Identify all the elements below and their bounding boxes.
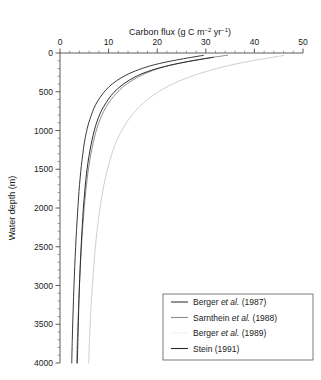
y-axis-title: Water depth (m) [7, 176, 17, 241]
legend-label-3: Stein (1991) [193, 344, 239, 354]
y-axis-ticks: 05001000150020002500300035004000 [34, 48, 60, 368]
legend-label-2: Berger et al. (1989) [193, 328, 266, 338]
x-axis-ticks: 01020304050 [58, 37, 308, 53]
y-tick-label: 1000 [34, 126, 53, 136]
x-tick-label: 0 [58, 37, 63, 47]
y-tick-label: 3500 [34, 319, 53, 329]
legend-label-0: Berger et al. (1987) [193, 297, 266, 307]
chart-title: Carbon flux (g C m−2 yr−1) [129, 27, 231, 38]
svg-text:Water depth (m): Water depth (m) [7, 176, 17, 241]
y-tick-label: 500 [39, 87, 53, 97]
legend-label-1: Sarnthein et al. (1988) [193, 313, 277, 323]
legend: Berger et al. (1987)Sarnthein et al. (19… [163, 294, 313, 360]
y-tick-label: 2500 [34, 242, 53, 252]
y-tick-label: 4000 [34, 358, 53, 368]
x-tick-label: 20 [152, 37, 162, 47]
y-tick-label: 2000 [34, 203, 53, 213]
y-tick-label: 1500 [34, 164, 53, 174]
carbon-flux-depth-chart: Carbon flux (g C m−2 yr−1) 01020304050 0… [0, 0, 321, 380]
svg-text:Carbon flux (g C m−2 yr−1): Carbon flux (g C m−2 yr−1) [129, 27, 231, 38]
x-tick-label: 30 [201, 37, 211, 47]
y-tick-label: 3000 [34, 281, 53, 291]
x-tick-label: 50 [298, 37, 308, 47]
x-tick-label: 10 [104, 37, 114, 47]
y-tick-label: 0 [48, 48, 53, 58]
x-tick-label: 40 [250, 37, 260, 47]
